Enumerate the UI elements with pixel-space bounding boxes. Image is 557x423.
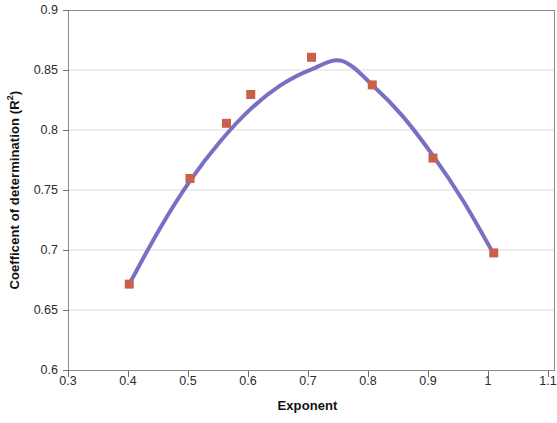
data-point-marker [222,119,231,128]
data-point-marker [489,248,498,257]
data-point-marker [125,280,134,289]
data-point-marker [186,174,195,183]
data-point-marker [368,80,377,89]
data-point-marker [307,53,316,62]
data-point-marker [429,154,438,163]
data-point-marker [246,90,255,99]
